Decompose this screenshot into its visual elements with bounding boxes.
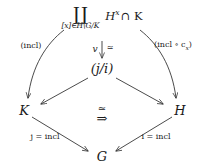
coproduct-body-suffix: ∩ K	[121, 9, 143, 23]
node-K: K	[19, 104, 29, 117]
arrow-comma-object-to-H	[116, 78, 163, 104]
label-vertical-equivalence: ≃	[107, 44, 114, 52]
node-G: G	[97, 150, 107, 163]
label-incl-compose-cx-close: )	[189, 40, 192, 49]
coproduct-icon: ∐	[73, 6, 87, 21]
node-coproduct: ∐ [x]∈H\G/K Hx ∩ K	[61, 6, 142, 30]
label-incl-left: (incl)	[21, 42, 42, 50]
node-H: H	[174, 104, 185, 117]
node-comma-object: (j/i)	[91, 62, 114, 75]
label-v: v	[92, 45, 97, 54]
coproduct-body: Hx ∩ K	[105, 8, 142, 23]
label-incl-compose-cx: (incl ∘ cx)	[154, 41, 192, 51]
arrow-comma-object-to-K	[41, 78, 88, 104]
coproduct-subscript: [x]∈H\G/K	[61, 22, 99, 30]
label-i-equals-incl: i = incl	[141, 133, 170, 141]
label-j-equals-incl: j = incl	[30, 133, 59, 141]
commutative-diagram: ∐ [x]∈H\G/K Hx ∩ K (incl) (incl ∘ cx) v …	[0, 0, 204, 166]
label-incl-compose-cx-open: (incl ∘ c	[154, 40, 185, 49]
two-cell-double-arrow-icon: ⇒	[97, 112, 108, 125]
two-cell-equivalence: ≃ ⇒	[97, 104, 108, 125]
coproduct-body-prefix: H	[105, 9, 115, 23]
